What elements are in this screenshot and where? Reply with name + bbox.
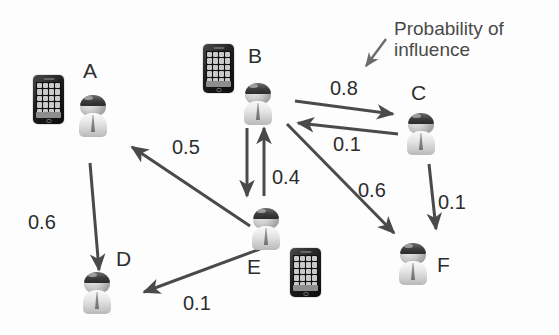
node-label-c: C <box>411 82 427 103</box>
person-hair <box>84 272 110 283</box>
person-hair <box>245 83 271 94</box>
edge-weight-B-E: 0.4 <box>272 167 300 187</box>
node-label-d: D <box>116 248 132 269</box>
person-node-f[interactable] <box>398 243 428 285</box>
phone-icon-b <box>203 44 234 93</box>
edge-weight-A-D: 0.6 <box>28 212 56 232</box>
edge-B-C <box>295 101 393 114</box>
person-node-c[interactable] <box>406 113 436 155</box>
edge-weight-B-F: 0.6 <box>358 180 386 200</box>
person-node-d[interactable] <box>82 272 112 314</box>
edge-E-D <box>144 249 260 292</box>
phone-home-button <box>216 88 221 92</box>
person-hair <box>80 95 106 106</box>
phone-speaker <box>43 78 54 80</box>
phone-screen <box>36 82 61 115</box>
phone-dock <box>206 81 231 87</box>
person-node-a[interactable] <box>78 95 108 137</box>
edge-weight-E-A: 0.5 <box>172 137 200 157</box>
phone-icon-e <box>290 248 321 297</box>
edge-E-A <box>132 147 250 226</box>
annotation-pointer-arrow <box>366 39 386 66</box>
edge-weight-E-D: 0.1 <box>183 293 211 313</box>
annotation-line-1: Probability of <box>394 18 504 39</box>
phone-icon-a <box>33 75 64 124</box>
person-hair <box>253 208 279 219</box>
phone-dock <box>36 112 61 118</box>
edge-A-D <box>90 163 99 270</box>
phone-screen <box>293 255 318 288</box>
node-label-a: A <box>83 60 98 81</box>
phone-screen <box>206 51 231 84</box>
annotation-line-2: influence <box>394 39 504 60</box>
edge-weight-B-C: 0.8 <box>330 78 358 98</box>
phone-speaker <box>300 251 311 253</box>
person-hair <box>400 243 426 254</box>
edge-weight-C-B: 0.1 <box>333 134 361 154</box>
phone-home-button <box>46 119 51 123</box>
phone-speaker <box>213 47 224 49</box>
node-label-b: B <box>248 45 263 66</box>
person-node-e[interactable] <box>251 208 281 250</box>
node-label-f: F <box>437 254 450 275</box>
phone-dock <box>293 285 318 291</box>
node-label-e: E <box>247 256 262 277</box>
edge-weight-C-F: 0.1 <box>438 192 466 212</box>
annotation-probability-of-influence: Probability of influence <box>394 18 504 61</box>
person-node-b[interactable] <box>243 83 273 125</box>
phone-home-button <box>303 292 308 296</box>
influence-diagram: A B C D E F <box>0 0 559 335</box>
person-hair <box>408 113 434 124</box>
edge-C-F <box>429 164 436 229</box>
